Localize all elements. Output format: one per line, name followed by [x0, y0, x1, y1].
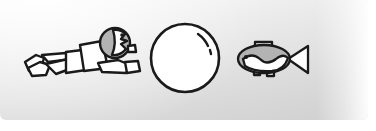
ball-highlight-dot — [210, 50, 211, 54]
ball-drawing — [148, 20, 224, 96]
fish-eye — [244, 55, 248, 59]
fish-figure — [234, 38, 312, 80]
swimmer-drawing — [22, 26, 144, 82]
illustration-art-layer — [0, 0, 376, 131]
swimmer-face-profile — [112, 30, 127, 55]
ball-sphere — [151, 24, 219, 92]
fish-drawing — [234, 38, 312, 80]
swimmer-eye — [120, 33, 124, 37]
swimmer-hand — [125, 61, 140, 73]
swimmer-figure — [22, 26, 144, 82]
swimmer-ear — [128, 45, 136, 52]
ball-figure — [148, 20, 224, 96]
